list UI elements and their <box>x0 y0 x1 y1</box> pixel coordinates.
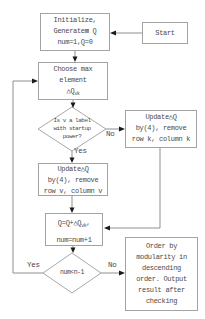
output-line: checking <box>126 296 197 307</box>
edge-label-yes-decision1: Yes <box>74 147 87 156</box>
arrowhead-into-decision2 <box>71 248 76 254</box>
q-formula: Q=Q+△Q <box>58 219 81 227</box>
edge-label-yes-decision2: Yes <box>27 261 40 270</box>
update-row-k-node: Update△Q by(4), remove row k, column k <box>125 110 197 148</box>
accumulate-line: Q=Q+△Qvk, <box>46 216 102 233</box>
edge-label-no-decision2: No <box>108 261 116 270</box>
output-line: modularity in <box>126 252 197 263</box>
update-k-line: by(4), remove <box>126 123 196 134</box>
edge-label-no-decision1: No <box>106 130 114 139</box>
initialize-node: Initialize, Generate⊠ Q num=1,Q=0 <box>40 13 110 51</box>
arrowhead-into-accumulate-right <box>104 226 110 231</box>
flowchart-canvas: Start Initialize, Generate⊠ Q num=1,Q=0 … <box>0 0 205 319</box>
initialize-line: Generate⊠ Q <box>41 26 109 37</box>
arrowhead-into-init <box>110 31 116 36</box>
accumulate-line: num=num+1 <box>46 233 102 247</box>
decision1-line: power? <box>44 133 100 141</box>
output-line: order. Output <box>126 274 197 285</box>
decision1-line: Is v a label <box>44 117 100 125</box>
choose-max-element-node: Choose max element △Qvk <box>38 62 108 100</box>
update-v-line: row v, column v <box>39 186 107 197</box>
update-v-line: Update△Q <box>39 164 107 175</box>
delta-q-subscript: vk <box>74 91 79 97</box>
decision2-condition: num<n-1 <box>60 269 84 276</box>
decision1-line: with startup <box>44 125 100 133</box>
choose-line: element <box>39 75 107 86</box>
edge-update-k-to-accumulate <box>109 148 160 228</box>
start-label: Start <box>143 23 187 43</box>
output-line: result after <box>126 285 197 296</box>
start-node: Start <box>142 22 188 44</box>
choose-line: △Qvk <box>39 86 107 100</box>
initialize-line: num=1,Q=0 <box>41 37 109 48</box>
update-v-line: by(4), remove <box>39 175 107 186</box>
output-result-node: Order by modularity in descending order.… <box>125 237 198 311</box>
decision-num-text: num<n-1 <box>47 269 97 277</box>
initialize-line: Initialize, <box>41 15 109 26</box>
decision-startup-power-text: Is v a label with startup power? <box>44 117 100 141</box>
update-k-line: Update△Q <box>126 112 196 123</box>
update-row-v-node: Update△Q by(4), remove row v, column v <box>38 163 108 196</box>
update-k-line: row k, column k <box>126 134 196 145</box>
q-formula-tail: , <box>86 219 90 227</box>
output-line: Order by <box>126 241 197 252</box>
accumulate-q-node: Q=Q+△Qvk, num=num+1 <box>45 213 103 246</box>
choose-line: Choose max <box>39 64 107 75</box>
output-line: descending <box>126 263 197 274</box>
